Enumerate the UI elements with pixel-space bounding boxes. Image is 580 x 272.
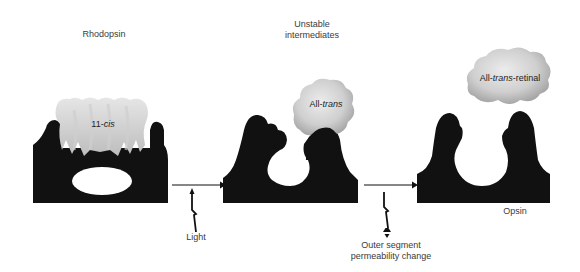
eleven-cis-label: 11-cis — [91, 119, 115, 129]
light-bolt-arrowhead — [190, 188, 195, 194]
permeability-arrowhead — [383, 228, 391, 232]
rhodopsin-label: Rhodopsin — [62, 29, 146, 40]
all-trans-retinal-cloud: All-trans-retinal — [467, 47, 551, 104]
unstable-label-line1: Unstable — [272, 19, 352, 30]
permeability-arrow — [364, 182, 418, 239]
all-trans-label: All-trans — [309, 99, 343, 109]
eleven-cis-chromophore: 11-cis — [56, 98, 149, 157]
opsin-protein — [417, 111, 550, 203]
all-trans-retinal-label: All-trans-retinal — [480, 73, 541, 83]
light-arrow — [172, 182, 226, 233]
outer-segment-label-line2: permeability change — [336, 251, 446, 262]
lightning-bolt-icon — [384, 192, 388, 228]
rhodopsin-pocket — [72, 167, 132, 195]
unstable-label-line2: intermediates — [272, 30, 352, 41]
light-label: Light — [176, 232, 216, 243]
opsin-label: Opsin — [490, 206, 540, 217]
lightning-bolt-icon — [192, 194, 196, 232]
outer-segment-label-line1: Outer segment — [346, 240, 436, 251]
